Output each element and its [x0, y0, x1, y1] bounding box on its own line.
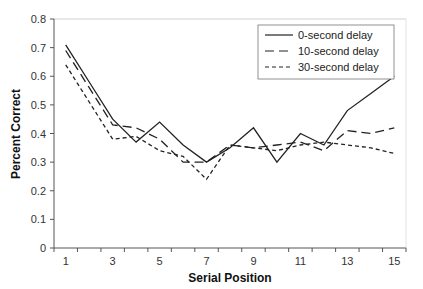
x-axis: 13579111315 [54, 248, 406, 267]
x-axis-title: Serial Position [188, 271, 271, 285]
x-tick-label: 1 [63, 255, 69, 267]
x-tick-label: 5 [157, 255, 163, 267]
y-tick-label: 0.8 [31, 13, 46, 25]
x-tick-label: 13 [341, 255, 353, 267]
legend-label-10s: 10-second delay [298, 45, 379, 57]
y-axis: 00.10.20.30.40.50.60.70.8 [31, 13, 54, 254]
y-tick-label: 0.5 [31, 99, 46, 111]
x-tick-label: 3 [110, 255, 116, 267]
line-chart: 00.10.20.30.40.50.60.70.8 13579111315 Pe… [0, 0, 423, 289]
y-tick-label: 0.4 [31, 128, 46, 140]
x-tick-label: 15 [388, 255, 400, 267]
x-tick-label: 11 [295, 255, 306, 267]
x-tick-label: 7 [203, 255, 209, 267]
legend-label-0s: 0-second delay [298, 29, 373, 41]
y-tick-label: 0.1 [31, 213, 46, 225]
y-tick-label: 0.2 [31, 185, 46, 197]
legend: 0-second delay 10-second delay 30-second… [258, 25, 394, 79]
y-axis-title: Percent Correct [9, 89, 23, 179]
x-tick-label: 9 [250, 255, 256, 267]
y-tick-label: 0 [40, 242, 46, 254]
y-tick-label: 0.6 [31, 70, 46, 82]
y-tick-label: 0.3 [31, 156, 46, 168]
y-tick-label: 0.7 [31, 42, 46, 54]
legend-label-30s: 30-second delay [298, 61, 379, 73]
